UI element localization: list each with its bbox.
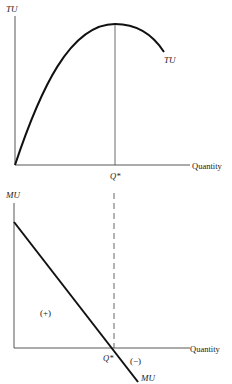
mu-minus-label: (−) — [130, 356, 141, 366]
tu-x-label: Quantity — [192, 161, 222, 171]
tu-chart: TU TU Quantity Q* — [6, 4, 222, 181]
mu-chart: MU (+) (−) Quantity Q* MU — [5, 190, 220, 383]
mu-line-label: MU — [140, 373, 155, 383]
tu-y-label: TU — [6, 4, 18, 14]
mu-y-label: MU — [5, 190, 20, 200]
mu-qstar-label: Q* — [103, 353, 114, 363]
tu-curve-label: TU — [164, 55, 176, 65]
mu-line — [14, 222, 138, 382]
mu-x-label: Quantity — [190, 344, 220, 354]
tu-curve — [15, 24, 164, 165]
mu-plus-label: (+) — [40, 308, 51, 318]
tu-qstar-label: Q* — [110, 171, 121, 181]
utility-charts: TU TU Quantity Q* MU (+) (−) Quantity Q*… — [0, 0, 232, 384]
